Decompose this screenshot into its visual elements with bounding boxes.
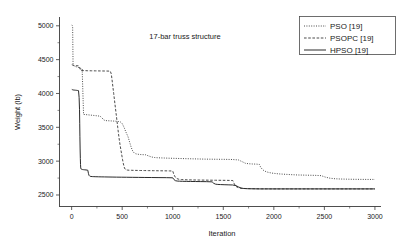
- y-tick-label: 5000: [38, 22, 54, 29]
- legend: PSO [19]PSOPC [19]HPSO [19]: [300, 17, 396, 56]
- y-tick-label: 2500: [38, 191, 54, 198]
- x-tick-label: 0: [70, 213, 74, 220]
- legend-label-psopc: PSOPC [19]: [330, 34, 374, 43]
- legend-label-pso: PSO [19]: [330, 22, 362, 31]
- y-tick-label: 3500: [38, 124, 54, 131]
- x-tick-label: 3000: [367, 213, 383, 220]
- x-tick-label: 500: [116, 213, 128, 220]
- x-axis-label: Iteration: [208, 229, 235, 238]
- y-tick-label: 4500: [38, 56, 54, 63]
- chart-figure: 250030003500400045005000 050010001500200…: [0, 0, 403, 251]
- x-tick-label: 2000: [266, 213, 282, 220]
- x-tick-label: 1000: [165, 213, 181, 220]
- y-axis-label: Weight (lb): [13, 93, 22, 130]
- x-tick-label: 1500: [215, 213, 231, 220]
- y-tick-label: 3000: [38, 158, 54, 165]
- y-tick-label: 4000: [38, 90, 54, 97]
- x-tick-label: 2500: [317, 213, 333, 220]
- plot-title: 17-bar truss structure: [149, 32, 220, 41]
- legend-label-hpso: HPSO [19]: [330, 46, 368, 55]
